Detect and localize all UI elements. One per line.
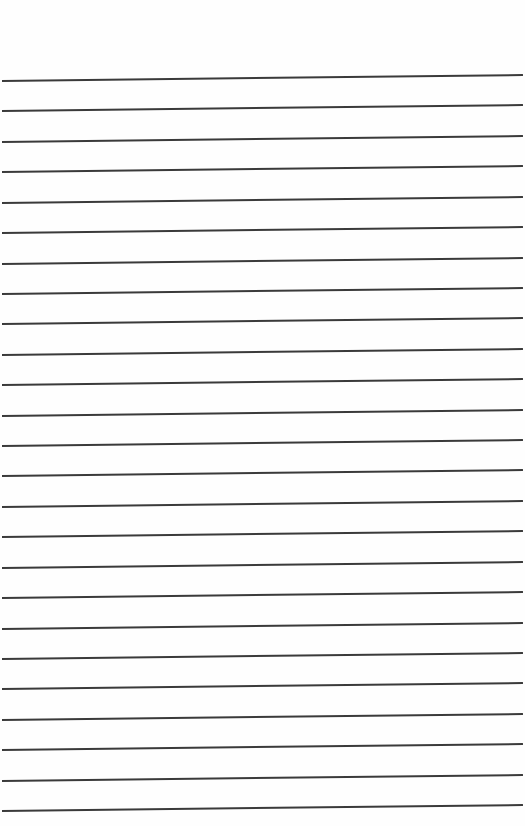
ruled-line	[2, 74, 523, 82]
ruled-line	[2, 469, 523, 477]
ruled-line	[2, 500, 523, 508]
ruled-line	[2, 378, 523, 386]
ruled-line	[2, 348, 523, 356]
ruled-line	[2, 135, 523, 143]
ruled-line	[2, 226, 523, 234]
ruled-line	[2, 713, 523, 721]
ruled-line	[2, 165, 523, 173]
ruled-line	[2, 743, 523, 751]
ruled-line	[2, 104, 523, 112]
lined-paper-sheet	[0, 0, 525, 826]
ruled-line	[2, 591, 523, 599]
ruled-line	[2, 196, 523, 204]
ruled-line	[2, 439, 523, 447]
ruled-line	[2, 682, 523, 690]
ruled-line	[2, 561, 523, 569]
ruled-line	[2, 257, 523, 265]
ruled-line	[2, 652, 523, 660]
ruled-line	[2, 530, 523, 538]
ruled-line	[2, 287, 523, 295]
ruled-line	[2, 804, 523, 812]
ruled-line	[2, 317, 523, 325]
ruled-line	[2, 409, 523, 417]
ruled-line	[2, 774, 523, 782]
ruled-line	[2, 622, 523, 630]
